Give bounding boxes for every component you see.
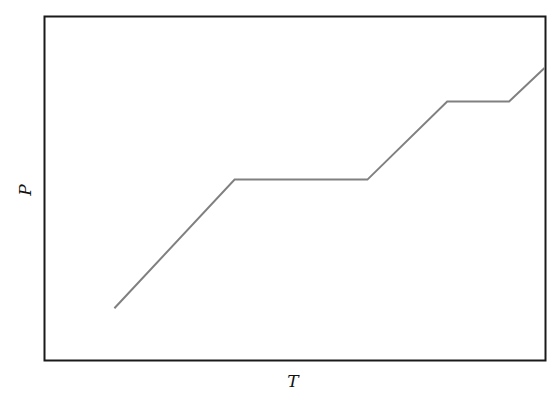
plot-frame xyxy=(45,17,546,361)
line-chart: T P xyxy=(0,0,549,397)
y-axis-label: P xyxy=(15,184,35,197)
x-axis-label: T xyxy=(287,371,300,391)
